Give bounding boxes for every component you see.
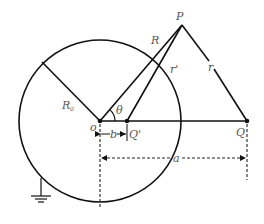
label-a: a — [173, 152, 180, 165]
label-p: P — [175, 10, 184, 23]
point-q — [245, 119, 250, 124]
label-r-prime: r' — [170, 63, 178, 76]
label-R: R — [150, 34, 159, 47]
label-b: b — [110, 128, 117, 141]
diagram-canvas: P R r' r R 0 θ o b Q' Q a — [0, 0, 264, 224]
dimension-a-arrowhead-left — [101, 155, 107, 161]
sphere-image-charge-diagram: P R r' r R 0 θ o b Q' Q a — [0, 0, 264, 224]
line-r-p-to-q-upper — [182, 25, 209, 61]
radius-r0-line — [42, 62, 100, 121]
label-r0: R — [61, 99, 70, 112]
label-q: Q — [236, 126, 245, 139]
theta-angle-arc — [110, 110, 115, 121]
label-r: r — [208, 61, 214, 74]
dimension-a-arrowhead-right — [240, 155, 246, 161]
point-o — [98, 119, 103, 124]
line-r-p-to-q-lower — [214, 69, 247, 121]
point-q-prime — [125, 119, 130, 124]
label-q-prime: Q' — [129, 128, 141, 141]
label-theta: θ — [116, 104, 123, 117]
label-r0-subscript: 0 — [70, 105, 74, 112]
label-o: o — [90, 121, 97, 134]
